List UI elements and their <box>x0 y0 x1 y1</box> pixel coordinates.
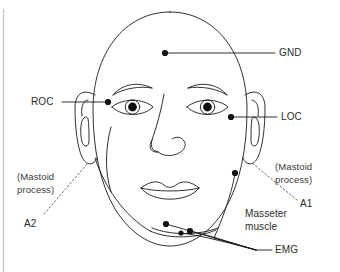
label-a2: A2 <box>24 218 36 231</box>
electrode-dot-emg-chin[interactable] <box>163 221 169 227</box>
label-mastoid-left-line2: process) <box>17 184 54 197</box>
emg-leader-jaw2 <box>190 231 256 250</box>
electrode-dot-loc[interactable] <box>228 114 234 120</box>
label-masseter-line1: Masseter <box>245 208 287 221</box>
emg-leader-jaw <box>181 233 256 250</box>
ear-right-inner-upper <box>252 100 258 116</box>
cheek-left-contour <box>106 127 111 192</box>
eyebrow-right <box>188 84 227 95</box>
ear-right-inner-lobe <box>251 117 259 146</box>
eye-right-pupil <box>203 103 212 112</box>
face-diagram-svg <box>0 0 340 272</box>
label-gnd: GND <box>279 47 302 60</box>
eyebrow-left <box>113 84 152 95</box>
label-emg: EMG <box>275 244 298 257</box>
electrode-dot-masseter[interactable] <box>232 170 238 176</box>
ear-left-inner-lobe <box>81 117 89 146</box>
nose-tip-and-nostrils <box>158 137 185 155</box>
mouth-line <box>141 188 199 191</box>
label-mastoid-left-line1: (Mastoid <box>17 171 54 184</box>
nose-bridge <box>151 94 164 152</box>
label-loc: LOC <box>281 111 302 124</box>
label-a1: A1 <box>300 198 312 211</box>
eyebrow-right-lower <box>188 87 227 95</box>
electrode-placement-figure: GND ROC LOC (Mastoid process) A2 (Mastoi… <box>0 0 340 272</box>
label-masseter-line2: muscle <box>245 221 277 234</box>
label-mastoid-right-line1: (Mastoid <box>275 161 312 174</box>
label-roc: ROC <box>31 96 54 109</box>
eyebrow-left-lower <box>113 87 152 95</box>
eye-left-pupil <box>128 103 137 112</box>
mouth-upper-lip <box>141 182 199 188</box>
electrode-dot-gnd[interactable] <box>162 50 168 56</box>
label-mastoid-right-line2: process) <box>275 174 312 187</box>
electrode-dot-roc[interactable] <box>105 99 111 105</box>
electrode-dot-emg-jaw-left[interactable] <box>178 230 183 235</box>
head-outline <box>93 12 247 246</box>
electrode-dot-emg-jaw-right[interactable] <box>187 228 193 234</box>
